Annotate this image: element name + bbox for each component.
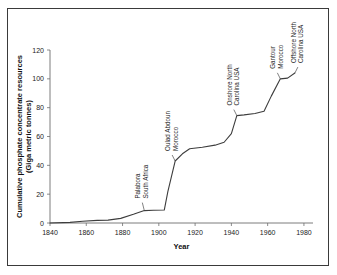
annotation-line2: South Africa xyxy=(142,164,149,198)
y-tick-label: 0 xyxy=(40,220,44,227)
x-tick-label: 1900 xyxy=(151,229,167,236)
y-tick-label: 20 xyxy=(36,191,44,198)
annotation-line1: Offshore North xyxy=(290,21,297,63)
annotation-labels: PalaboraSouth AfricaOulad AbdounMoroccoO… xyxy=(134,21,304,198)
line-chart: 020406080100120 184018601880190019201940… xyxy=(8,9,330,267)
annotation-line1: Palabora xyxy=(134,173,141,199)
x-tick-label: 1960 xyxy=(260,229,276,236)
y-tick-label: 80 xyxy=(36,104,44,111)
x-tick-labels: 18401860188019001920194019601980 xyxy=(42,229,312,236)
annotation-leader xyxy=(142,203,144,211)
y-tick-label: 100 xyxy=(32,75,44,82)
y-tick-label: 60 xyxy=(36,133,44,140)
annotation-palabora-south-africa: PalaboraSouth Africa xyxy=(134,164,149,198)
annotation-gantour-morocco: GantourMorocco xyxy=(269,44,284,69)
annotation-leader xyxy=(295,67,298,73)
chart-plot-area: 020406080100120 184018601880190019201940… xyxy=(8,9,330,267)
annotation-leader xyxy=(234,110,237,116)
x-axis xyxy=(50,223,313,226)
annotation-line2: Morocco xyxy=(172,126,179,151)
annotation-line2: Carolina USA xyxy=(233,67,240,106)
y-axis xyxy=(47,50,50,223)
x-tick-label: 1880 xyxy=(115,229,131,236)
x-tick-label: 1920 xyxy=(187,229,203,236)
annotation-line2: Carolina USA xyxy=(297,24,304,63)
annotation-leader xyxy=(277,73,280,79)
annotation-leader xyxy=(172,155,175,161)
annotation-oulad-abdoun-morocco: Oulad AbdounMorocco xyxy=(164,111,179,151)
annotation-line2: Morocco xyxy=(277,44,284,69)
y-axis-title-line2: (Giga metric tonnes) xyxy=(24,100,33,173)
x-tick-label: 1940 xyxy=(224,229,240,236)
annotation-onshore-north-carolina-usa: Onshore NorthCarolina USA xyxy=(226,64,241,106)
figure-frame: 020406080100120 184018601880190019201940… xyxy=(7,8,329,266)
y-axis-title: Cumulative phosphate concentrate resourc… xyxy=(15,55,33,218)
annotation-line1: Gantour xyxy=(269,46,276,69)
annotation-line1: Onshore North xyxy=(226,64,233,106)
x-tick-label: 1980 xyxy=(296,229,312,236)
annotation-line1: Oulad Abdoun xyxy=(164,111,171,151)
y-tick-label: 120 xyxy=(32,47,44,54)
x-tick-label: 1860 xyxy=(78,229,94,236)
annotation-offshore-north-carolina-usa: Offshore NorthCarolina USA xyxy=(290,21,305,63)
x-axis-title: Year xyxy=(174,242,190,251)
y-tick-label: 40 xyxy=(36,162,44,169)
x-tick-label: 1840 xyxy=(42,229,58,236)
y-tick-labels: 020406080100120 xyxy=(32,47,44,227)
